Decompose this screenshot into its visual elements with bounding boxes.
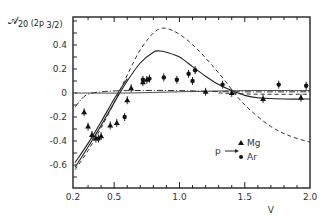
legend-ar-label: Ar — [247, 152, 257, 162]
x-tick-label: 1.5 — [238, 192, 252, 202]
y-tick-label: -0.6 — [49, 160, 67, 170]
curves — [75, 28, 310, 170]
data-points — [81, 66, 308, 142]
axes: 0.40.20-0.2-0.4-0.60.20.51.01.52.0V𝒜20 (… — [8, 14, 318, 215]
mg-point — [85, 124, 91, 129]
mg-point — [298, 95, 304, 100]
mg-point — [81, 109, 87, 114]
theory-solid-2-curve — [75, 79, 127, 163]
y-tick-label: -0.2 — [49, 112, 67, 122]
legend: pMgAr — [215, 138, 260, 162]
x-tick-label: 2.0 — [303, 192, 318, 202]
y-axis-title: 𝒜20 (2p 3/2) — [8, 14, 63, 30]
legend-mg-label: Mg — [247, 138, 260, 148]
mg-point — [107, 122, 113, 127]
ar-point — [190, 79, 194, 83]
ar-point — [122, 115, 126, 119]
x-axis-label: V — [268, 205, 275, 215]
ar-point — [162, 75, 166, 79]
legend-ar-marker — [239, 155, 243, 159]
y-tick-label: 0 — [61, 88, 67, 98]
mg-point — [114, 120, 120, 125]
mg-point — [124, 97, 130, 102]
theory-solid-curve — [75, 51, 310, 168]
ar-point — [147, 76, 151, 80]
plot-frame — [73, 17, 310, 188]
ar-point — [304, 84, 308, 88]
y-tick-label: 0.4 — [53, 40, 68, 50]
x-tick-label: 0.5 — [107, 192, 121, 202]
x-tick-label: 1.0 — [172, 192, 187, 202]
ar-point — [277, 82, 281, 86]
y-tick-label: 0.2 — [53, 64, 67, 74]
mg-point — [128, 85, 134, 90]
ar-point — [193, 68, 197, 72]
legend-prefix: p — [215, 146, 221, 156]
chart-canvas: 0.40.20-0.2-0.4-0.60.20.51.01.52.0V𝒜20 (… — [0, 0, 323, 217]
legend-mg-marker — [238, 140, 244, 145]
ar-point — [175, 78, 179, 82]
ar-point — [186, 72, 190, 76]
ar-point — [141, 78, 145, 82]
x-tick-label: 0.2 — [66, 192, 80, 202]
ar-point — [96, 136, 100, 140]
legend-arrowhead-icon — [235, 149, 239, 153]
y-tick-label: -0.4 — [49, 136, 67, 146]
ar-point — [220, 82, 224, 86]
